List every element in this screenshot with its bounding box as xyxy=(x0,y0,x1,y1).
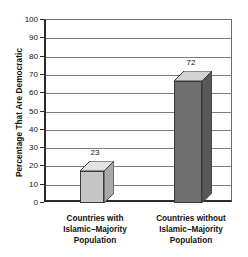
x-category-label-line: Islamic–Majority xyxy=(156,224,226,235)
bar xyxy=(174,20,202,203)
x-category-label-line: Population xyxy=(63,235,127,246)
bar xyxy=(80,20,104,203)
bar-value-label: 23 xyxy=(91,148,100,157)
y-tick-label: 10 xyxy=(8,179,38,188)
y-tick-label: 60 xyxy=(8,88,38,97)
gridline xyxy=(46,57,231,58)
bar-front-face xyxy=(174,81,202,203)
plot-area xyxy=(44,19,232,202)
y-tick-label: 50 xyxy=(8,106,38,115)
x-category-label-line: Population xyxy=(156,235,226,246)
x-category-label-line: Islamic–Majority xyxy=(63,224,127,235)
bar-side-face xyxy=(104,161,114,203)
bar-value-label: 72 xyxy=(187,58,196,67)
x-category-label: Countries withIslamic–MajorityPopulation xyxy=(63,213,127,247)
x-category-label: Countries withoutIslamic–MajorityPopulat… xyxy=(156,213,226,247)
y-tick-label: 70 xyxy=(8,69,38,78)
x-category-label-line: Countries with xyxy=(63,213,127,224)
y-tick-label: 20 xyxy=(8,161,38,170)
bar-chart: Percentage That Are Democratic 100908070… xyxy=(0,0,248,257)
bar-front-face xyxy=(80,171,104,203)
bar-side-face xyxy=(202,71,212,203)
y-tick-label: 80 xyxy=(8,51,38,60)
gridline xyxy=(46,38,231,39)
y-tick-label: 90 xyxy=(8,33,38,42)
x-category-label-line: Countries without xyxy=(156,213,226,224)
y-tick-mark xyxy=(40,202,44,203)
y-tick-label: 100 xyxy=(8,15,38,24)
y-tick-label: 0 xyxy=(8,198,38,207)
y-tick-label: 40 xyxy=(8,124,38,133)
y-tick-label: 30 xyxy=(8,143,38,152)
